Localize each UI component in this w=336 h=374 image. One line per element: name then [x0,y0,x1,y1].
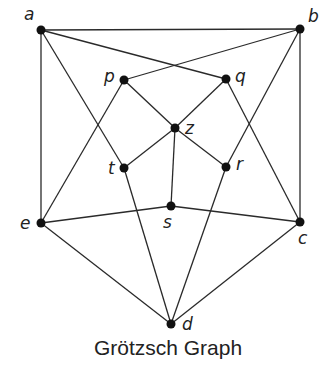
edge-a-b [41,29,300,30]
edge-b-p [124,29,300,80]
edge-t-d [124,168,171,324]
vertex-label-e: e [20,213,30,233]
vertex-a [37,26,46,35]
edge-c-d [171,222,300,324]
vertex-label-r: r [236,154,244,174]
edge-a-t [41,30,124,168]
edge-t-z [124,128,175,168]
edge-e-s [41,206,171,223]
edge-q-z [175,79,226,128]
edge-a-q [41,30,226,79]
grotzsch-graph-diagram: abpqztrsecd [0,0,336,374]
edge-b-r [226,29,300,167]
diagram-title: Grötzsch Graph [0,336,336,360]
vertex-c [296,218,305,227]
vertex-p [120,76,129,85]
vertex-label-t: t [108,158,116,178]
edge-q-c [226,79,300,222]
vertex-label-a: a [24,4,34,24]
vertex-d [167,320,176,329]
edge-s-c [171,206,300,222]
edge-r-d [171,167,226,324]
edge-p-z [124,80,175,128]
vertex-s [167,202,176,211]
edge-e-d [41,223,171,324]
vertex-label-p: p [103,66,115,86]
vertex-e [37,219,46,228]
vertex-label-z: z [184,118,195,138]
edges-group [41,29,300,324]
nodes-group [37,25,305,329]
edge-z-s [171,128,175,206]
labels-group: abpqztrsecd [20,4,319,334]
vertex-label-c: c [298,228,308,248]
vertex-z [171,124,180,133]
vertex-label-q: q [235,66,246,86]
edge-p-e [41,80,124,223]
vertex-label-s: s [163,212,172,232]
vertex-b [296,25,305,34]
vertex-t [120,164,129,173]
vertex-label-b: b [308,6,319,26]
vertex-label-d: d [182,314,193,334]
vertex-q [222,75,231,84]
vertex-r [222,163,231,172]
edge-r-z [175,128,226,167]
